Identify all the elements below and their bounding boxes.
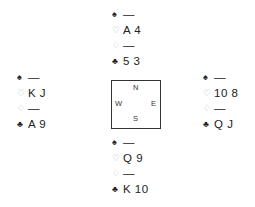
south-diamonds-cards: — xyxy=(123,167,135,179)
north-diamonds-cards: — xyxy=(123,39,135,51)
south-spades: ♠— xyxy=(112,135,149,151)
spade-icon: ♠ xyxy=(112,7,123,23)
club-icon: ♣ xyxy=(112,182,123,198)
heart-icon: ♡ xyxy=(203,86,214,102)
heart-icon: ♡ xyxy=(17,86,28,102)
club-icon: ♣ xyxy=(17,117,28,133)
east-spades: ♠— xyxy=(203,70,238,86)
compass-north: N xyxy=(133,83,138,92)
east-spades-cards: — xyxy=(214,71,226,83)
heart-icon: ♡ xyxy=(112,23,123,39)
east-hand: ♠— ♡10 8 ♢— ♣Q J xyxy=(203,70,238,132)
north-hand: ♠— ♡A 4 ♢— ♣5 3 xyxy=(112,7,141,69)
east-diamonds-cards: — xyxy=(214,102,226,114)
east-clubs-cards: Q J xyxy=(214,118,233,130)
west-hand: ♠— ♡K J ♢— ♣A 9 xyxy=(17,70,46,132)
spade-icon: ♠ xyxy=(112,135,123,151)
south-clubs: ♣K 10 xyxy=(112,182,149,198)
east-diamonds: ♢— xyxy=(203,101,238,117)
compass-west: W xyxy=(115,99,122,108)
west-spades-cards: — xyxy=(28,71,40,83)
west-diamonds-cards: — xyxy=(28,102,40,114)
south-clubs-cards: K 10 xyxy=(123,183,149,195)
compass-east: E xyxy=(151,99,156,108)
compass-box: N W E S xyxy=(111,80,161,129)
west-hearts: ♡K J xyxy=(17,86,46,102)
west-clubs: ♣A 9 xyxy=(17,117,46,133)
south-hand: ♠— ♡Q 9 ♢— ♣K 10 xyxy=(112,135,149,197)
south-diamonds: ♢— xyxy=(112,166,149,182)
east-hearts-cards: 10 8 xyxy=(214,87,238,99)
spade-icon: ♠ xyxy=(17,70,28,86)
north-hearts: ♡A 4 xyxy=(112,23,141,39)
diamond-icon: ♢ xyxy=(112,166,123,182)
club-icon: ♣ xyxy=(112,54,123,70)
south-hearts: ♡Q 9 xyxy=(112,151,149,167)
spade-icon: ♠ xyxy=(203,70,214,86)
west-diamonds: ♢— xyxy=(17,101,46,117)
north-clubs-cards: 5 3 xyxy=(123,55,141,67)
north-clubs: ♣5 3 xyxy=(112,54,141,70)
south-hearts-cards: Q 9 xyxy=(123,152,143,164)
south-spades-cards: — xyxy=(123,136,135,148)
north-spades: ♠— xyxy=(112,7,141,23)
heart-icon: ♡ xyxy=(112,151,123,167)
west-hearts-cards: K J xyxy=(28,87,46,99)
east-clubs: ♣Q J xyxy=(203,117,238,133)
diamond-icon: ♢ xyxy=(112,38,123,54)
diamond-icon: ♢ xyxy=(203,101,214,117)
west-spades: ♠— xyxy=(17,70,46,86)
east-hearts: ♡10 8 xyxy=(203,86,238,102)
diamond-icon: ♢ xyxy=(17,101,28,117)
compass-south: S xyxy=(133,114,138,123)
north-diamonds: ♢— xyxy=(112,38,141,54)
west-clubs-cards: A 9 xyxy=(28,118,46,130)
club-icon: ♣ xyxy=(203,117,214,133)
north-spades-cards: — xyxy=(123,8,135,20)
north-hearts-cards: A 4 xyxy=(123,24,141,36)
